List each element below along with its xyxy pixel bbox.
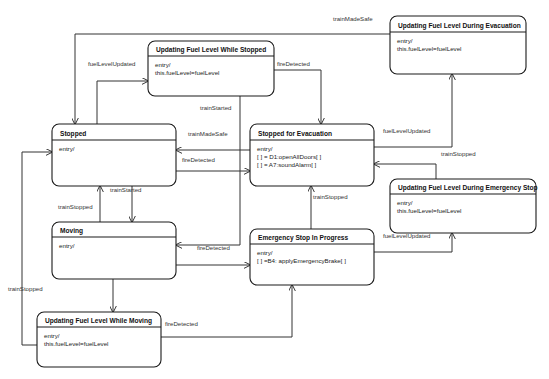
transition-t3: fireDetected [274,60,321,124]
state-body-line: entry/ [397,199,413,206]
transition-arrow [97,81,148,124]
transition-label: trainStarted [200,104,232,111]
transition-label: fireDetected [277,60,310,67]
transition-label: trainStarted [110,186,142,193]
state-moving[interactable]: Movingentry/ [52,222,176,279]
state-updating_fuel_level_during_emergency_stop[interactable]: Updating Fuel Level During Emergency Sto… [390,179,538,233]
transition-arrow [161,285,292,337]
state-body-line: [ ] = D1:openAllDoors[ ] [257,153,321,160]
transition-t15: fireDetected [161,285,292,337]
state-title: Moving [60,227,83,235]
transition-label: fuelLevelUpdated [88,60,135,67]
state-body-line: entry/ [59,242,75,249]
state-stopped_for_evacuation[interactable]: Stopped for Evacuationentry/[ ] = D1:ope… [250,124,374,186]
transition-label: trainStopped [8,285,43,292]
transition-label: trainStopped [441,150,476,157]
state-title: Emergency Stop In Progress [258,234,348,242]
transition-label: fuelLevelUpdated [383,127,430,134]
state-title: Stopped for Evacuation [258,130,332,138]
transition-label: trainStopped [313,193,348,200]
state-body-line: this.fuelLevel=fuelLevel [44,340,109,347]
transition-label: trainMadeSafe [333,15,373,22]
state-title: Updating Fuel Level During Evacuation [398,22,521,30]
transition-t9: trainStarted [110,186,142,222]
transition-arrow [274,70,321,124]
state-body-line: entry/ [155,61,171,68]
transition-t11: fireDetected [176,244,250,265]
state-updating_fuel_level_while_moving[interactable]: Updating Fuel Level While Movingentry/th… [37,312,161,367]
transition-t2: fuelLevelUpdated [88,60,148,124]
transition-label: trainMadeSafe [188,130,228,137]
state-updating_fuel_level_while_stopped[interactable]: Updating Fuel Level While Stoppedentry/t… [148,41,274,96]
state-body-line: [ ] =B4: applyEmergencyBrake[ ] [257,257,346,264]
transition-label: fireDetected [182,156,215,163]
state-body-line: entry/ [397,37,413,44]
state-emergency_stop_in_progress[interactable]: Emergency Stop In Progressentry/[ ] =B4:… [250,229,374,285]
transition-arrow [374,164,436,179]
state-body-line: entry/ [257,145,273,152]
state-title: Updating Fuel Level During Emergency Sto… [398,184,538,192]
state-body-line: [ ] = A7:soundAlarm[ ] [257,161,317,168]
transition-label: trainStopped [58,203,93,210]
transition-t7: fuelLevelUpdated [374,74,452,147]
transition-t12: trainStopped [311,186,348,229]
state-body-line: entry/ [257,249,273,256]
state-title: Updating Fuel Level While Moving [45,317,152,325]
state-body-line: entry/ [44,332,60,339]
state-body-line: this.fuelLevel=fuelLevel [155,69,220,76]
transition-t13: fuelLevelUpdated [374,232,452,252]
state-body-line: this.fuelLevel=fuelLevel [397,45,462,52]
transition-t8: trainStopped [374,150,476,179]
state-title: Updating Fuel Level While Stopped [156,46,266,54]
state-updating_fuel_level_during_evacuation[interactable]: Updating Fuel Level During Evacuationent… [390,16,526,74]
transition-t5: trainMadeSafe [176,130,250,150]
transition-arrow [374,74,452,147]
transition-label: fireDetected [165,320,198,327]
state-title: Stopped [60,130,86,138]
state-stopped[interactable]: Stoppedentry/ [52,124,176,186]
state-diagram-canvas: trainMadeSafefuelLevelUpdatedfireDetecte… [0,0,549,379]
state-body-line: entry/ [59,145,75,152]
transition-t6: fireDetected [176,156,250,171]
state-body-line: this.fuelLevel=fuelLevel [397,207,462,214]
state-machine-diagram: trainMadeSafefuelLevelUpdatedfireDetecte… [0,0,549,379]
transition-label: fireDetected [197,244,230,251]
transition-t10: trainStopped [58,186,100,222]
